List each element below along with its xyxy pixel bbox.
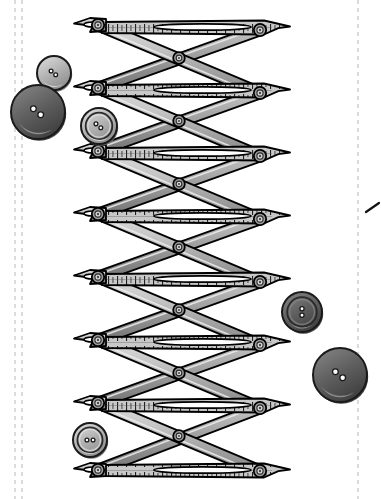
pivot-rivet-core — [259, 29, 261, 31]
pivot-rivet-core — [97, 150, 99, 152]
pivot-rivet-core — [259, 407, 261, 409]
button-thread-hole — [38, 112, 44, 118]
illustration-canvas: Lazy-tongs scissor extension mechanism w… — [0, 0, 381, 499]
arm-finger-slot — [154, 276, 251, 282]
pivot-rivet-core — [259, 470, 261, 472]
button-thread-hole — [340, 375, 346, 381]
pivot-rivet-core — [178, 246, 180, 248]
button-thread-hole — [91, 438, 95, 442]
pivot-rivet-core — [97, 402, 99, 404]
arm-finger-slot — [154, 24, 251, 30]
button-large-dark-left — [11, 85, 66, 141]
button-thread-hole — [31, 106, 37, 112]
pivot-rivet-core — [97, 213, 99, 215]
button-large-dark-right — [313, 348, 368, 404]
button-ringed-light-lower — [73, 423, 108, 459]
pivot-rivet-core — [97, 24, 99, 26]
arm-finger-slot — [154, 402, 251, 408]
button-thread-hole — [94, 122, 98, 126]
pivot-rivet-core — [97, 276, 99, 278]
scissor-mechanism-artwork: Lazy-tongs scissor extension mechanism w… — [0, 0, 381, 499]
button-thread-hole — [333, 369, 339, 375]
pivot-rivet-core — [259, 218, 261, 220]
button-thread-hole — [49, 69, 53, 73]
button-thread-hole — [85, 438, 89, 442]
pivot-rivet-core — [178, 183, 180, 185]
pivot-rivet-core — [259, 155, 261, 157]
pivot-rivet-core — [259, 344, 261, 346]
pivot-rivet-core — [178, 120, 180, 122]
button-thread-hole — [99, 126, 103, 130]
pivot-rivet-core — [178, 435, 180, 437]
button-thread-hole — [300, 307, 304, 311]
button-thread-hole — [54, 73, 58, 77]
pivot-rivet-core — [259, 92, 261, 94]
button-thread-hole — [300, 313, 304, 317]
button-ringed-light-upper — [81, 108, 118, 146]
pivot-rivet-core — [97, 469, 99, 471]
arm-finger-slot — [154, 339, 251, 345]
button-medium-dark-right — [282, 292, 323, 334]
arm-finger-slot — [154, 87, 251, 93]
pivot-rivet-core — [178, 372, 180, 374]
button-face — [313, 348, 367, 402]
pivot-rivet-core — [97, 87, 99, 89]
pivot-rivet-core — [178, 57, 180, 59]
button-face — [11, 85, 65, 139]
pivot-rivet-core — [97, 339, 99, 341]
pivot-rivet-core — [178, 309, 180, 311]
arm-finger-slot — [154, 467, 251, 473]
arm-finger-slot — [154, 213, 251, 219]
pivot-rivet-core — [259, 281, 261, 283]
arm-finger-slot — [154, 150, 251, 156]
